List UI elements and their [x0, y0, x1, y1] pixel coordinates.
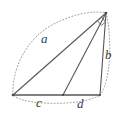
side-b-label: b — [105, 48, 112, 61]
foot-vertex-dot — [62, 94, 64, 96]
dotted-arc-lower — [13, 95, 99, 103]
left-vertex-dot — [12, 94, 15, 97]
base-left-segment-label: c — [36, 96, 42, 109]
figure-canvas — [0, 0, 116, 118]
side-a-line — [13, 13, 106, 95]
cevian-line — [63, 13, 106, 95]
right-vertex-dot — [99, 94, 101, 96]
apex-vertex-dot — [105, 12, 108, 15]
base-right-segment-label: d — [77, 97, 84, 110]
geometry-figure: a b c d — [0, 0, 116, 118]
side-a-label: a — [41, 32, 48, 45]
